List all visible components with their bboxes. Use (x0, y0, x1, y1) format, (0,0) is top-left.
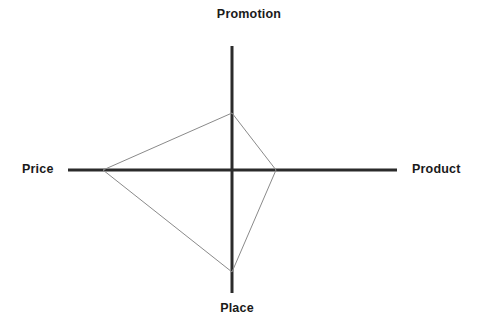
axis-label-price: Price (22, 163, 54, 176)
radar-chart: Promotion Price Product Place (0, 0, 486, 334)
axis-label-product: Product (412, 163, 461, 176)
axis-label-promotion: Promotion (6, 8, 486, 21)
axis-label-place: Place (0, 302, 480, 315)
